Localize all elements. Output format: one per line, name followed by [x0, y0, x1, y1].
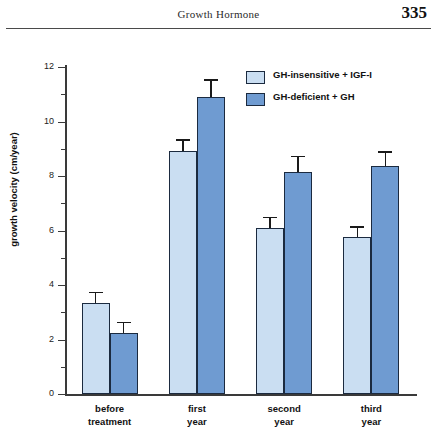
y-tick-major [58, 394, 66, 395]
error-bar-cap [89, 292, 103, 294]
header-divider [6, 28, 431, 29]
y-tick-label: 2 [10, 334, 54, 344]
y-tick-label: 0 [10, 388, 54, 398]
bar-chart: 024681012 growth velocity (cm/year) befo… [0, 34, 437, 438]
legend-label: GH-deficient + GH [273, 91, 355, 102]
bar [110, 333, 138, 394]
y-tick-major [58, 340, 66, 341]
error-bar-stem [95, 292, 96, 303]
page-header: Growth Hormone 335 [0, 0, 437, 34]
y-tick-major [58, 231, 66, 232]
y-tick-major [58, 285, 66, 286]
error-bar-cap [176, 139, 190, 141]
x-axis-category-label: firstyear [153, 402, 240, 428]
error-bar-stem [182, 139, 183, 151]
legend-swatch [246, 93, 265, 106]
bar [371, 166, 399, 394]
error-bar-cap [263, 217, 277, 219]
error-bar-stem [269, 217, 270, 228]
page-number: 335 [402, 3, 428, 23]
bar [197, 97, 225, 394]
x-axis-line [65, 394, 417, 396]
category-label-line: year [328, 415, 415, 428]
legend-item: GH-insensitive + IGF-I [246, 69, 426, 91]
y-tick-label: 12 [10, 61, 54, 71]
error-bar-stem [297, 156, 298, 172]
bar [82, 303, 110, 394]
x-axis-category-label: secondyear [241, 402, 328, 428]
legend-label: GH-insensitive + IGF-I [273, 69, 372, 80]
category-label-line: before [66, 402, 153, 415]
error-bar-cap [350, 226, 364, 228]
error-bar-stem [210, 79, 211, 97]
legend-swatch [246, 71, 265, 84]
y-axis-title: growth velocity (cm/year) [8, 90, 19, 290]
category-label-line: year [241, 415, 328, 428]
category-label-line: first [153, 402, 240, 415]
category-label-line: year [153, 415, 240, 428]
bar [343, 237, 371, 394]
category-label-line: treatment [66, 415, 153, 428]
x-axis-category-label: thirdyear [328, 402, 415, 428]
error-bar-cap [378, 151, 392, 153]
legend-item: GH-deficient + GH [246, 91, 426, 113]
error-bar-stem [357, 226, 358, 237]
y-tick-major [58, 122, 66, 123]
y-tick-major [58, 67, 66, 68]
error-bar-cap [204, 79, 218, 81]
bar [256, 228, 284, 394]
x-axis-category-label: beforetreatment [66, 402, 153, 428]
error-bar-cap [291, 156, 305, 158]
chart-legend: GH-insensitive + IGF-IGH-deficient + GH [246, 69, 426, 113]
category-label-line: third [328, 402, 415, 415]
y-tick-major [58, 176, 66, 177]
error-bar-cap [117, 322, 131, 324]
category-label-line: second [241, 402, 328, 415]
error-bar-stem [385, 151, 386, 166]
running-head-title: Growth Hormone [0, 8, 437, 20]
bar [169, 151, 197, 394]
error-bar-stem [123, 322, 124, 333]
bar [284, 172, 312, 394]
